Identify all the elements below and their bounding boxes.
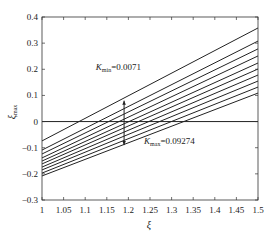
series-line <box>42 93 258 176</box>
series-line <box>42 28 258 141</box>
y-tick-labels: 0.40.30.20.10−0.1−0.2−0.3 <box>22 12 39 205</box>
svg-text:1.45: 1.45 <box>229 205 245 215</box>
series-line <box>42 81 258 170</box>
svg-text:−0.1: −0.1 <box>22 143 38 153</box>
svg-text:1.3: 1.3 <box>166 205 178 215</box>
svg-text:0.4: 0.4 <box>27 12 39 22</box>
svg-text:1.1: 1.1 <box>80 205 91 215</box>
annotation-k-min: Kmin=0.0071 <box>95 62 141 73</box>
y-axis-label: ξmax <box>6 105 18 120</box>
svg-text:1.25: 1.25 <box>142 205 158 215</box>
svg-text:1.5: 1.5 <box>252 205 264 215</box>
x-axis-label: ξ <box>147 219 152 231</box>
svg-text:0: 0 <box>34 117 39 127</box>
svg-text:0.1: 0.1 <box>27 90 38 100</box>
svg-text:0.3: 0.3 <box>27 38 39 48</box>
series-line <box>42 75 258 167</box>
svg-text:1.15: 1.15 <box>99 205 115 215</box>
svg-text:1.2: 1.2 <box>123 205 134 215</box>
series-line <box>42 87 258 173</box>
svg-text:1.05: 1.05 <box>56 205 72 215</box>
series-line <box>42 69 258 164</box>
svg-text:0.2: 0.2 <box>27 64 38 74</box>
x-tick-labels: 11.051.11.151.21.251.31.351.41.451.5 <box>40 205 264 215</box>
svg-text:1.35: 1.35 <box>185 205 201 215</box>
svg-text:−0.3: −0.3 <box>22 195 39 205</box>
svg-text:1.4: 1.4 <box>209 205 221 215</box>
svg-text:−0.2: −0.2 <box>22 169 38 179</box>
annotation-k-max: Kmax=0.09274 <box>143 136 195 147</box>
svg-text:1: 1 <box>40 205 45 215</box>
data-lines <box>42 28 258 176</box>
series-line <box>42 41 258 150</box>
chart: 11.051.11.151.21.251.31.351.41.451.5 0.4… <box>0 0 272 237</box>
